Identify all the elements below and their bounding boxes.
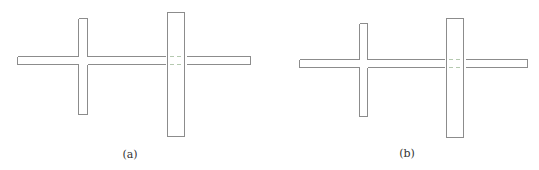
- caption-b: (b): [399, 147, 415, 160]
- diagram-canvas: [0, 0, 539, 170]
- large-post: [447, 19, 464, 138]
- subfigure-b: [300, 19, 528, 138]
- caption-a: (a): [122, 148, 137, 161]
- large-post: [168, 13, 185, 137]
- subfigure-a: [18, 13, 251, 137]
